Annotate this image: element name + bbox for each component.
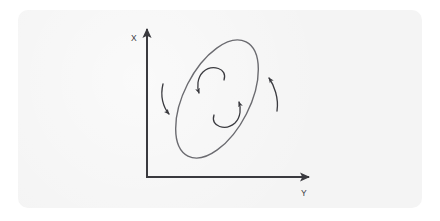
outer-arrow-left — [162, 84, 169, 114]
outer-arrow-right — [269, 78, 277, 111]
tilted-ellipse-group — [159, 27, 276, 171]
inner-arrow-lower — [213, 102, 240, 127]
y-axis-label: Y — [301, 188, 307, 198]
figure-root: X Y — [0, 0, 440, 221]
tilted-ellipse — [159, 27, 276, 171]
inner-arrow-upper — [198, 68, 225, 93]
diagram-canvas: X Y — [0, 0, 440, 221]
outer-arrow-group — [162, 78, 278, 114]
inner-arrow-group — [198, 68, 240, 127]
x-axis-label: X — [131, 33, 137, 43]
axis-group: X Y — [131, 29, 309, 198]
